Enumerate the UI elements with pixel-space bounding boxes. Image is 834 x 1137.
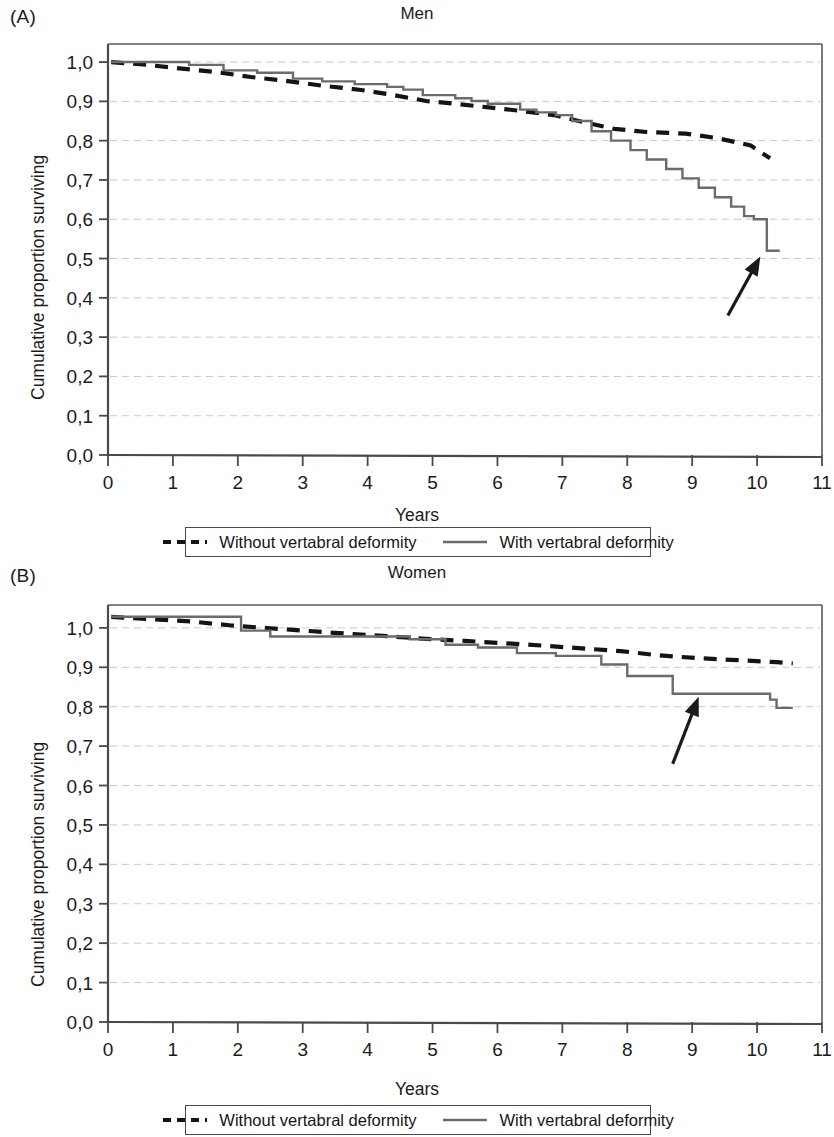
y-tick-label: 0,3	[67, 894, 93, 915]
x-tick-label: 5	[427, 1039, 438, 1060]
y-tick-label: 1,0	[67, 618, 93, 639]
legend-item-without-a: Without vertabral deformity	[162, 533, 416, 552]
panel-b-x-axis-title: Years	[395, 1079, 439, 1099]
x-tick-label: 2	[233, 472, 244, 493]
y-tick-label: 0,2	[67, 366, 93, 387]
annotation-arrow-head	[745, 257, 761, 277]
x-tick-label: 10	[747, 472, 768, 493]
x-tick-label: 8	[622, 472, 633, 493]
y-tick-label: 0,5	[67, 815, 93, 836]
x-tick-label: 9	[687, 1039, 698, 1060]
annotation-arrow-shaft	[728, 269, 754, 315]
x-tick-label: 8	[622, 1039, 633, 1060]
gridlines	[110, 62, 820, 416]
x-tick-label: 11	[812, 472, 832, 493]
x-tick-label: 1	[168, 1039, 179, 1060]
y-tick-label: 0,2	[67, 933, 93, 954]
legend-panel-b: Without vertabral deformity With vertabr…	[185, 1105, 651, 1135]
y-tick-label: 0,3	[67, 327, 93, 348]
x-tick-label: 3	[297, 472, 308, 493]
x-tick-label: 11	[812, 1039, 832, 1060]
x-tick-label: 7	[557, 1039, 568, 1060]
legend-solid-swatch-b	[442, 1114, 488, 1126]
annotation-arrow-shaft	[673, 710, 694, 764]
y-tick-label: 0,8	[67, 131, 93, 152]
y-tick-label: 0,6	[67, 209, 93, 230]
y-tick-label: 0,4	[67, 288, 94, 309]
legend-label-without-b: Without vertabral deformity	[219, 1111, 416, 1130]
x-tick-label: 7	[557, 472, 568, 493]
figure-page: (A) Men Cumulative proportion surviving …	[0, 0, 834, 1137]
x-tick-label: 4	[362, 472, 373, 493]
panel-a-x-axis-title: Years	[395, 505, 439, 525]
series-with-vertabral-deformity	[111, 617, 793, 708]
x-tick-label: 6	[492, 1039, 503, 1060]
y-tick-label: 0,9	[67, 91, 93, 112]
x-tick-label: 2	[233, 1039, 244, 1060]
legend-label-without-a: Without vertabral deformity	[219, 533, 416, 552]
x-tick-label: 0	[103, 472, 114, 493]
x-tick-label: 0	[103, 1039, 114, 1060]
y-tick-label: 0,1	[67, 406, 93, 427]
x-tick-label: 4	[362, 1039, 373, 1060]
series-without-vertabral-deformity	[111, 62, 770, 158]
series-with-vertabral-deformity	[111, 62, 780, 251]
legend-solid-swatch-a	[442, 536, 488, 548]
x-tick-label: 1	[168, 472, 179, 493]
y-tick-label: 0,7	[67, 170, 93, 191]
y-tick-label: 0,6	[67, 776, 93, 797]
legend-item-with-b: With vertabral deformity	[442, 1111, 673, 1130]
x-tick-label: 5	[427, 472, 438, 493]
panel-a-plot: 0,00,10,20,30,40,50,60,70,80,91,00123456…	[0, 0, 834, 500]
y-tick-label: 0,4	[67, 854, 94, 875]
legend-item-with-a: With vertabral deformity	[442, 533, 673, 552]
y-tick-label: 0,9	[67, 657, 93, 678]
panel-women: (B) Women Cumulative proportion survivin…	[0, 557, 834, 1137]
x-axis-line	[108, 455, 822, 457]
series-without-vertabral-deformity	[111, 617, 793, 664]
x-axis-line	[108, 1022, 822, 1024]
y-tick-label: 0,5	[67, 249, 93, 270]
legend-dashed-swatch-a	[162, 536, 208, 548]
x-tick-label: 3	[297, 1039, 308, 1060]
y-tick-label: 0,0	[67, 445, 93, 466]
y-tick-label: 0,0	[67, 1012, 93, 1033]
panel-b-plot: 0,00,10,20,30,40,50,60,70,80,91,00123456…	[0, 557, 834, 1077]
legend-label-with-b: With vertabral deformity	[499, 1111, 673, 1130]
legend-label-with-a: With vertabral deformity	[499, 533, 673, 552]
x-tick-label: 10	[747, 1039, 768, 1060]
x-tick-label: 6	[492, 472, 503, 493]
legend-panel-a: Without vertabral deformity With vertabr…	[185, 527, 651, 557]
y-tick-label: 0,7	[67, 736, 93, 757]
y-tick-label: 0,8	[67, 697, 93, 718]
y-tick-label: 0,1	[67, 973, 93, 994]
gridlines	[110, 628, 820, 983]
y-tick-label: 1,0	[67, 52, 93, 73]
panel-men: (A) Men Cumulative proportion surviving …	[0, 0, 834, 560]
legend-dashed-swatch-b	[162, 1114, 208, 1126]
legend-item-without-b: Without vertabral deformity	[162, 1111, 416, 1130]
x-tick-label: 9	[687, 472, 698, 493]
